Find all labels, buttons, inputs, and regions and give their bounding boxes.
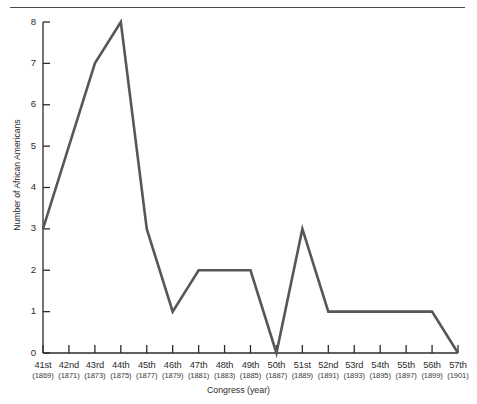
x-axis-tick-congress: 44th [112,360,130,370]
x-axis-tick-congress: 53rd [345,360,363,370]
x-axis-tick-congress: 45th [138,360,156,370]
chart-figure: 012345678 41st(1869)42nd(1871)43rd(1873)… [0,0,477,404]
x-axis-tick-congress: 47th [190,360,208,370]
x-axis-tick-congress: 56th [423,360,441,370]
x-axis-ticks [43,345,458,353]
data-series-line [43,22,458,353]
y-axis-tick-label: 1 [18,305,36,316]
x-axis-tick-congress: 51st [294,360,311,370]
x-axis-tick-label: 57th(1901) [442,360,474,380]
x-axis-tick-congress: 48th [216,360,234,370]
y-axis-tick-label: 7 [18,57,36,68]
x-axis-tick-congress: 42nd [59,360,79,370]
x-axis-tick-congress: 54th [371,360,389,370]
x-axis-title: Congress (year) [0,385,477,395]
x-axis-tick-congress: 41st [34,360,51,370]
x-axis-tick-congress: 49th [242,360,260,370]
x-axis-tick-congress: 57th [449,360,467,370]
axes [43,22,458,353]
y-axis-tick-label: 0 [18,347,36,358]
x-axis-tick-congress: 43rd [86,360,104,370]
y-axis-tick-label: 2 [18,264,36,275]
y-axis-tick-label: 8 [18,16,36,27]
x-axis-tick-congress: 46th [164,360,182,370]
y-axis-title: Number of African Americans [12,100,22,250]
x-axis-tick-year: (1901) [442,371,474,380]
line-chart-plot [0,0,477,404]
x-axis-tick-congress: 50th [268,360,286,370]
x-axis-tick-congress: 55th [397,360,415,370]
x-axis-tick-congress: 52nd [318,360,338,370]
y-axis-ticks [43,22,50,353]
